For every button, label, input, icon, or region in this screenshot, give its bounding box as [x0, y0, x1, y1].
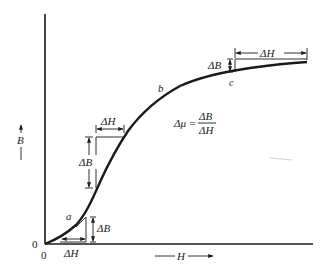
origin-y-label: 0	[32, 238, 38, 250]
mid-delta-b-label: ΔB	[78, 156, 92, 168]
scan-smudge	[270, 158, 292, 160]
mid-delta-h-label: ΔH	[100, 115, 116, 127]
low-delta-b-label: ΔB	[96, 222, 110, 234]
bh-curve	[45, 62, 307, 244]
low-delta-h-label: ΔH	[63, 247, 79, 259]
formula-lhs: Δμ =	[173, 117, 196, 129]
origin-x-label: 0	[41, 249, 47, 261]
b-axis-label: B	[17, 134, 24, 146]
b-axis-label-group: B	[16, 125, 26, 160]
formula-numerator: ΔB	[198, 110, 212, 122]
high-delta-b-label: ΔB	[207, 59, 221, 71]
point-a-label: a	[66, 210, 72, 222]
permeability-formula: Δμ = ΔB ΔH	[173, 110, 216, 136]
point-b-label: b	[158, 82, 164, 94]
h-axis-label: H	[176, 250, 186, 262]
bh-curve-diagram: 0 0 B H ΔB ΔH a ΔB ΔH b	[0, 0, 326, 272]
h-axis-label-group: H	[155, 250, 213, 262]
high-delta-h-label: ΔH	[259, 47, 275, 59]
point-c-label: c	[229, 77, 234, 88]
formula-denominator: ΔH	[198, 124, 214, 136]
